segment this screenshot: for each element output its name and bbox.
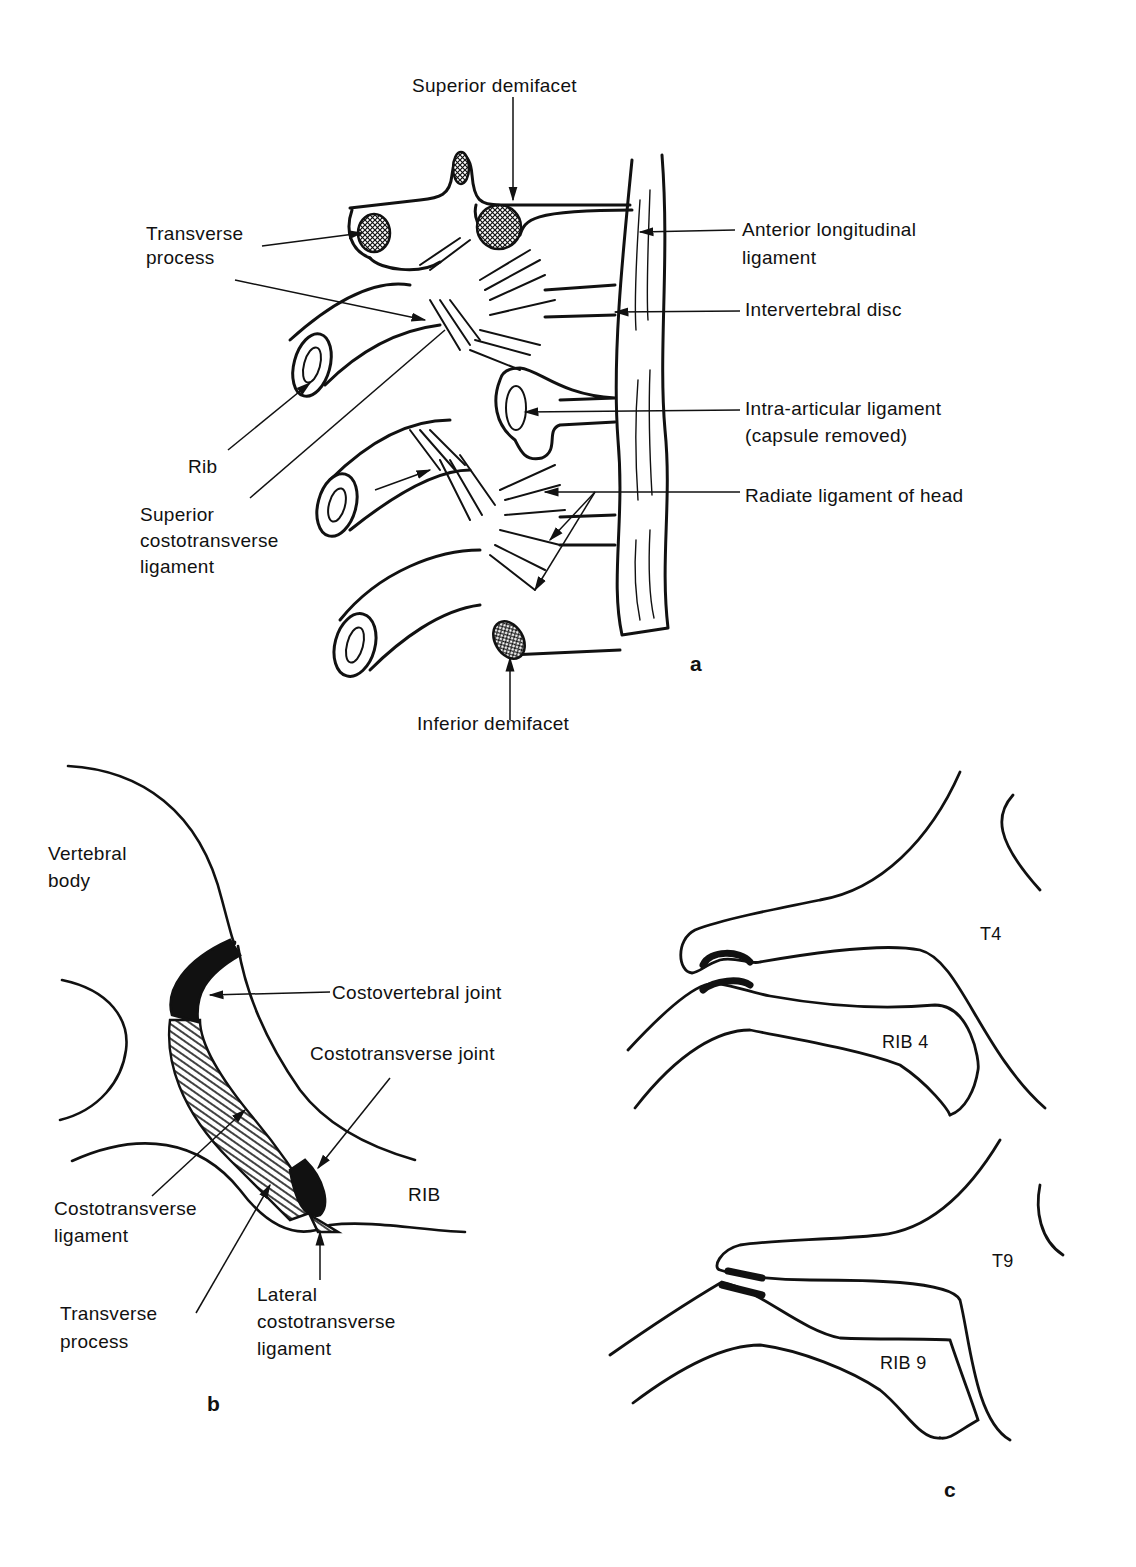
- label-superior-costotransverse-line3: ligament: [140, 555, 214, 579]
- label-costotransverse-ligament-line2: ligament: [54, 1224, 128, 1248]
- label-intra-articular-line1: Intra-articular ligament: [745, 397, 941, 421]
- label-vertebral-body-line2: body: [48, 869, 90, 893]
- label-vertebral-body-line1: Vertebral: [48, 842, 127, 866]
- label-rib4: RIB 4: [882, 1030, 929, 1054]
- panel-letter-a: a: [690, 652, 702, 676]
- panel-c-drawing: [610, 772, 1063, 1440]
- label-anterior-longitudinal-line2: ligament: [742, 246, 816, 270]
- label-inferior-demifacet: Inferior demifacet: [417, 712, 569, 736]
- label-rib9: RIB 9: [880, 1351, 927, 1375]
- label-intervertebral-disc: Intervertebral disc: [745, 298, 902, 322]
- label-t9: T9: [992, 1249, 1014, 1273]
- label-superior-demifacet: Superior demifacet: [412, 74, 577, 98]
- label-costotransverse-ligament-line1: Costotransverse: [54, 1197, 197, 1221]
- label-transverse-process-b-line2: process: [60, 1330, 129, 1354]
- label-lateral-costotransverse-line2: costotransverse: [257, 1310, 396, 1334]
- label-superior-costotransverse-line2: costotransverse: [140, 529, 279, 553]
- label-rib-a: Rib: [188, 455, 217, 479]
- label-lateral-costotransverse-line3: ligament: [257, 1337, 331, 1361]
- label-lateral-costotransverse-line1: Lateral: [257, 1283, 317, 1307]
- label-anterior-longitudinal-line1: Anterior longitudinal: [742, 218, 916, 242]
- label-costotransverse-joint: Costotransverse joint: [310, 1042, 495, 1066]
- label-transverse-process-a-line2: process: [146, 246, 215, 270]
- panel-letter-c: c: [944, 1478, 956, 1502]
- label-rib-b: RIB: [408, 1183, 441, 1207]
- panel-letter-b: b: [207, 1392, 220, 1416]
- label-intra-articular-line2: (capsule removed): [745, 424, 907, 448]
- label-superior-costotransverse-line1: Superior: [140, 503, 214, 527]
- label-t4: T4: [980, 922, 1002, 946]
- label-transverse-process-a-line1: Transverse: [146, 222, 243, 246]
- label-transverse-process-b-line1: Transverse: [60, 1302, 157, 1326]
- label-radiate-ligament: Radiate ligament of head: [745, 484, 963, 508]
- label-costovertebral-joint: Costovertebral joint: [332, 981, 502, 1005]
